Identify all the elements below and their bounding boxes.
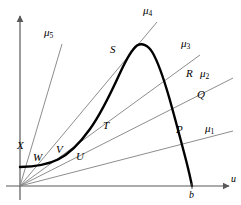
point-label-V: V — [56, 144, 63, 155]
point-label-Q: Q — [197, 89, 205, 100]
point-label-R: R — [186, 68, 193, 79]
ray-label-mu5: μ5 — [44, 27, 53, 39]
ray-label-mu3: μ3 — [181, 38, 190, 50]
mu1-subscript: 1 — [211, 127, 215, 136]
main-curve — [20, 44, 192, 186]
figure-container: μ1 μ2 μ3 μ4 μ5 P Q R S T U V W X u b — [0, 0, 241, 205]
ray-label-mu1: μ1 — [205, 123, 214, 135]
ray-label-mu2: μ2 — [200, 68, 209, 80]
point-label-U: U — [76, 151, 84, 162]
mu4-subscript: 4 — [149, 9, 153, 18]
curve-group — [20, 44, 192, 186]
mu2-subscript: 2 — [206, 72, 210, 81]
diagram-canvas — [0, 0, 241, 205]
x-axis-label: u — [231, 174, 236, 184]
mu5-subscript: 5 — [50, 31, 54, 40]
point-label-P: P — [176, 124, 183, 135]
x-axis-tick-label-b: b — [189, 190, 194, 200]
point-label-X: X — [17, 140, 24, 151]
ray-mu3 — [20, 55, 200, 186]
ray-label-mu4: μ4 — [143, 5, 152, 17]
point-label-T: T — [103, 120, 109, 131]
point-label-W: W — [33, 152, 42, 163]
point-label-S: S — [110, 44, 116, 55]
mu3-subscript: 3 — [187, 42, 191, 51]
ray-mu1 — [20, 131, 233, 186]
